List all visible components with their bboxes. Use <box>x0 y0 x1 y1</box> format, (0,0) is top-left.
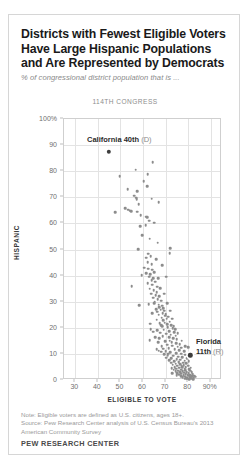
data-point <box>169 247 172 250</box>
data-point <box>169 340 172 343</box>
x-axis-tick-mark <box>96 379 97 382</box>
data-point <box>153 221 156 224</box>
data-point <box>165 333 168 336</box>
data-point <box>136 190 139 193</box>
annotation-florida-11th: Florida11th (R) <box>196 337 224 356</box>
data-point <box>139 225 142 228</box>
data-point <box>114 211 117 214</box>
data-point <box>180 353 183 356</box>
x-axis-tick-mark <box>119 379 120 382</box>
data-point <box>181 366 184 369</box>
x-axis-tick-mark <box>142 379 143 382</box>
data-point <box>137 248 140 251</box>
data-point <box>188 378 191 381</box>
data-point <box>157 277 160 280</box>
data-point <box>146 173 149 176</box>
data-point <box>185 377 188 380</box>
data-point <box>151 312 154 315</box>
data-point <box>145 257 148 260</box>
data-point <box>150 255 153 258</box>
gridline-horizontal <box>64 302 220 303</box>
data-point <box>118 175 121 178</box>
data-point <box>177 361 180 364</box>
annotation-district-name: California 40th <box>87 135 139 144</box>
gridline-vertical <box>143 119 144 378</box>
data-point <box>187 346 190 349</box>
data-point <box>165 317 168 320</box>
data-point <box>146 282 149 285</box>
y-axis-tick-label: 90 <box>17 141 57 148</box>
data-point <box>153 302 156 305</box>
annotation-district-number: 11th <box>196 347 211 356</box>
data-point <box>161 264 164 267</box>
x-axis-tick-mark <box>209 379 210 382</box>
gridline-horizontal <box>64 145 220 146</box>
annotation-district-name: Florida <box>196 337 221 346</box>
data-point <box>156 329 159 332</box>
data-point <box>160 324 163 327</box>
y-axis-tick-label: 50 <box>17 245 57 252</box>
data-point <box>150 197 153 200</box>
gridline-vertical <box>120 119 121 378</box>
data-point <box>165 275 168 278</box>
data-point <box>186 357 189 360</box>
data-point <box>147 267 150 270</box>
data-point <box>180 346 183 349</box>
data-point <box>148 237 151 240</box>
data-point <box>168 330 171 333</box>
data-point <box>171 317 174 320</box>
data-point <box>164 340 167 343</box>
gridline-horizontal <box>64 197 220 198</box>
data-point <box>154 336 157 339</box>
data-point <box>171 345 174 348</box>
annotation-party: (R) <box>213 347 223 356</box>
data-point <box>153 271 156 274</box>
data-point <box>152 296 155 299</box>
data-point <box>154 281 157 284</box>
data-point <box>167 353 170 356</box>
chart-note: Note: Eligible voters are defined as U.S… <box>21 411 233 436</box>
data-point <box>151 263 154 266</box>
data-point <box>157 341 160 344</box>
data-point <box>135 198 138 201</box>
data-point <box>146 261 149 264</box>
data-point <box>160 299 163 302</box>
data-point <box>136 210 139 213</box>
x-axis-title: ELIGIBLE TO VOTE <box>63 396 221 403</box>
data-point <box>163 293 166 296</box>
data-point <box>148 287 151 290</box>
data-point <box>134 168 137 171</box>
source-line: Source: Pew Research Center analysis of … <box>21 419 233 436</box>
data-point <box>162 329 165 332</box>
data-point <box>138 304 141 307</box>
data-point <box>176 345 179 348</box>
gridline-horizontal <box>64 171 220 172</box>
data-point <box>146 216 149 219</box>
gridline-vertical <box>188 119 189 378</box>
data-point <box>172 337 175 340</box>
data-point <box>141 274 144 277</box>
gridline-vertical <box>75 119 76 378</box>
data-point <box>127 188 130 191</box>
data-point <box>188 360 191 363</box>
data-point <box>137 203 140 206</box>
page-title: Districts with Fewest Eligible Voters Ha… <box>21 27 229 71</box>
data-point <box>141 234 144 237</box>
data-point <box>148 339 151 342</box>
note-line: Note: Eligible voters are defined as U.S… <box>21 411 233 419</box>
annotation-california-40th: California 40th (D) <box>87 135 152 145</box>
data-point <box>143 266 146 269</box>
data-point <box>184 353 187 356</box>
data-point <box>150 292 153 295</box>
data-point <box>148 303 151 306</box>
data-point <box>155 258 158 261</box>
pew-chart-card: Districts with Fewest Eligible Voters Ha… <box>8 14 240 455</box>
data-point <box>173 348 176 351</box>
data-point <box>130 285 133 288</box>
data-point <box>168 320 171 323</box>
data-point <box>166 343 169 346</box>
data-point <box>167 347 170 350</box>
data-point <box>172 325 175 328</box>
data-point <box>166 302 169 305</box>
data-point <box>167 326 170 329</box>
